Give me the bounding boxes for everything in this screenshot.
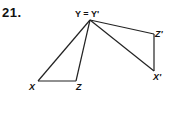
label-apex-y: Y = Y' (75, 9, 99, 19)
rotation-diagram: Y = Y' X Z Z' X' (0, 0, 170, 114)
label-x-prime: X' (152, 72, 162, 82)
triangle-xyz (38, 20, 90, 81)
label-z-prime: Z' (154, 29, 163, 39)
label-x: X (28, 82, 36, 92)
segment-zy (76, 20, 90, 81)
segment-yx (38, 20, 90, 81)
label-z: Z (75, 82, 82, 92)
triangle-xprime-yprime-zprime (90, 20, 154, 71)
segment-xprime-y (90, 20, 154, 71)
